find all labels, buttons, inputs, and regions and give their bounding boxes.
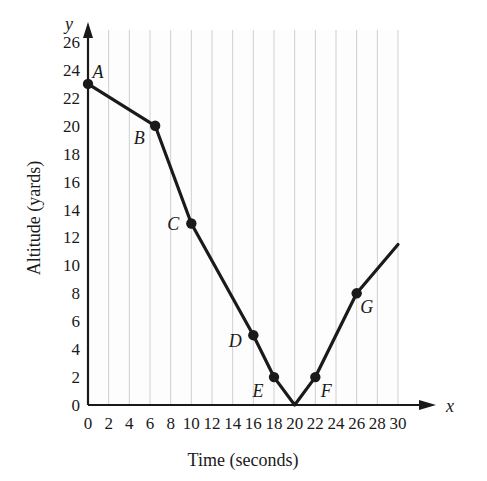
point-label-a: A <box>92 62 105 82</box>
data-point-marker-b <box>150 121 160 131</box>
x-tick-label: 12 <box>204 414 221 433</box>
point-label-c: C <box>167 214 180 234</box>
x-tick-label: 10 <box>183 414 200 433</box>
x-tick-label: 26 <box>348 414 365 433</box>
y-axis-variable-label: y <box>63 14 73 34</box>
data-point-marker-d <box>248 330 258 340</box>
x-tick-label: 18 <box>266 414 283 433</box>
y-tick-label: 6 <box>72 312 81 331</box>
x-tick-label: 20 <box>286 414 303 433</box>
x-tick-label: 2 <box>104 414 113 433</box>
y-tick-label: 22 <box>63 89 80 108</box>
y-tick-label: 14 <box>63 201 81 220</box>
data-point-marker-c <box>186 218 196 228</box>
point-label-b: B <box>134 128 145 148</box>
y-tick-label: 8 <box>72 284 81 303</box>
y-tick-label: 2 <box>72 368 81 387</box>
y-tick-label: 20 <box>63 117 80 136</box>
chart-figure: y x 024681012141618202224262830 02468101… <box>0 0 487 481</box>
point-label-g: G <box>360 297 373 317</box>
x-tick-labels: 024681012141618202224262830 <box>84 414 407 433</box>
x-tick-label: 8 <box>166 414 175 433</box>
point-label-d: D <box>228 331 242 351</box>
y-axis-title: Altitude (yards) <box>24 161 45 275</box>
x-tick-label: 28 <box>369 414 386 433</box>
x-axis-variable-label: x <box>445 396 454 416</box>
y-tick-label: 4 <box>72 340 81 359</box>
x-axis-title: Time (seconds) <box>188 450 299 471</box>
y-tick-label: 10 <box>63 256 80 275</box>
x-tick-label: 4 <box>125 414 134 433</box>
y-tick-label: 16 <box>63 173 80 192</box>
y-tick-labels: 02468101214161820222426 <box>63 33 81 415</box>
data-point-marker-f <box>310 372 320 382</box>
plot-background <box>88 30 398 405</box>
y-tick-label: 18 <box>63 145 80 164</box>
y-tick-label: 12 <box>63 228 80 247</box>
x-tick-label: 24 <box>328 414 346 433</box>
x-tick-label: 14 <box>224 414 242 433</box>
x-tick-label: 0 <box>84 414 93 433</box>
x-tick-label: 22 <box>307 414 324 433</box>
point-label-e: E <box>252 381 264 401</box>
x-tick-label: 6 <box>146 414 155 433</box>
altitude-vs-time-line-chart: y x 024681012141618202224262830 02468101… <box>0 0 487 481</box>
data-point-marker-e <box>269 372 279 382</box>
point-label-f: F <box>320 381 333 401</box>
y-tick-label: 24 <box>63 61 81 80</box>
x-axis-arrowhead <box>419 400 436 410</box>
x-tick-label: 16 <box>245 414 262 433</box>
y-tick-label: 26 <box>63 33 80 52</box>
y-tick-label: 0 <box>72 396 81 415</box>
x-tick-label: 30 <box>390 414 407 433</box>
